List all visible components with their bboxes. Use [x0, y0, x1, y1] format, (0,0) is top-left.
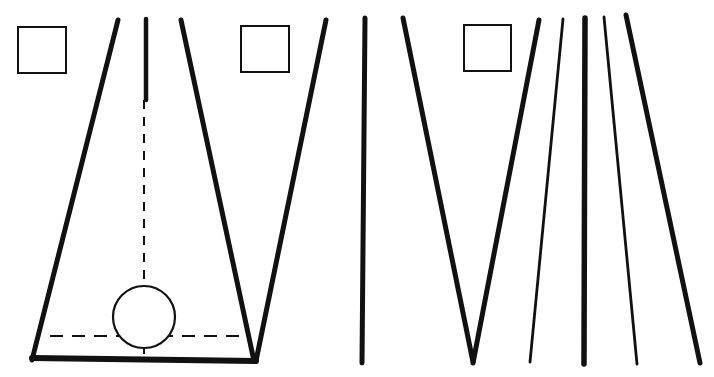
answer-checkbox-1[interactable]	[18, 27, 66, 73]
pole-line-2	[530, 19, 563, 362]
figure-3-five-poles	[464, 15, 700, 364]
pole-line-2	[362, 18, 365, 363]
pole-line-1	[32, 20, 118, 360]
pole-line-4	[604, 17, 637, 364]
figure-1-tipi-floor-plan	[18, 19, 256, 361]
base-line	[32, 358, 256, 361]
diagram-canvas	[0, 0, 714, 377]
pole-line-5	[626, 15, 700, 363]
hearth-circle	[113, 286, 175, 348]
poles-group-3	[473, 15, 700, 364]
pole-line-3	[584, 18, 585, 364]
answer-checkbox-3[interactable]	[464, 25, 511, 71]
figure-2-three-poles	[241, 18, 473, 363]
answer-checkbox-2[interactable]	[241, 26, 289, 72]
pole-line-3	[403, 18, 473, 362]
